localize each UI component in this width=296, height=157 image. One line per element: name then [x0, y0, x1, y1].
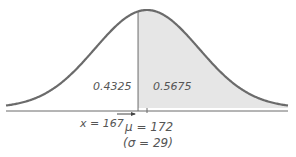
- left-area-label: 0.4325: [93, 80, 132, 93]
- arrow-head-icon: [131, 112, 136, 116]
- x-value-label: x = 167: [80, 117, 124, 130]
- mean-label: μ = 172: [125, 120, 173, 134]
- shaded-area: [138, 10, 288, 108]
- sigma-label: (σ = 29): [123, 136, 173, 150]
- right-area-label: 0.5675: [153, 80, 192, 93]
